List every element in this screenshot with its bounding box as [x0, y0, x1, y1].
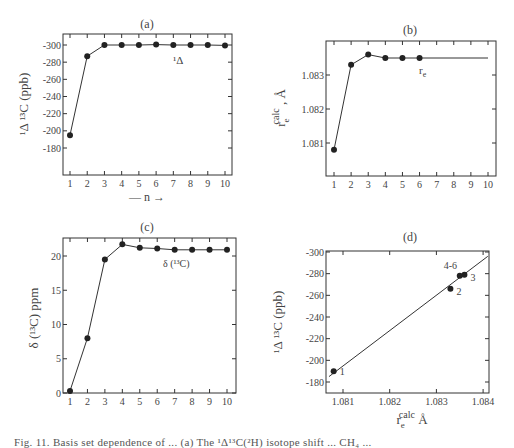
- svg-text:1.083: 1.083: [425, 396, 448, 407]
- svg-text:1.083: 1.083: [302, 70, 325, 81]
- svg-text:4: 4: [383, 179, 388, 190]
- svg-text:-280: -280: [306, 268, 324, 279]
- svg-text:-200: -200: [306, 355, 324, 366]
- svg-text:7: 7: [171, 178, 176, 189]
- panel-b-chart: (b) 1.0811.0821.08312345678910 re recalc…: [270, 23, 496, 190]
- svg-text:2: 2: [456, 286, 461, 297]
- panel-c-chart: (c) 0510152012345678910 δ (¹³C) δ (¹³C) …: [26, 220, 236, 407]
- panel-c-series: [67, 241, 230, 394]
- svg-text:-260: -260: [43, 74, 61, 85]
- svg-text:7: 7: [172, 396, 177, 407]
- svg-text:9: 9: [207, 396, 212, 407]
- svg-text:1.082: 1.082: [302, 104, 325, 115]
- svg-text:5: 5: [400, 179, 405, 190]
- svg-text:-240: -240: [43, 91, 61, 102]
- svg-text:2: 2: [349, 179, 354, 190]
- svg-text:2: 2: [85, 396, 90, 407]
- svg-text:-300: -300: [306, 247, 324, 258]
- svg-text:-260: -260: [306, 290, 324, 301]
- panel-c-frame: [63, 238, 236, 393]
- panel-c-ylabel: δ (¹³C) ppm: [26, 288, 41, 349]
- panel-d-chart: (d) -300-280-260-240-220-200-1801.0811.0…: [270, 230, 494, 430]
- panel-b-annotation: re: [419, 64, 427, 79]
- panel-d-series: 1234-6: [329, 256, 488, 377]
- svg-text:-220: -220: [306, 333, 324, 344]
- panel-a-annotation: ¹Δ: [173, 54, 183, 66]
- svg-text:0: 0: [56, 388, 61, 399]
- panel-b-series: [331, 52, 488, 153]
- svg-text:10: 10: [51, 319, 61, 330]
- svg-text:5: 5: [136, 178, 141, 189]
- svg-text:3: 3: [102, 396, 107, 407]
- svg-text:9: 9: [468, 179, 473, 190]
- svg-text:8: 8: [190, 396, 195, 407]
- svg-text:4: 4: [119, 178, 124, 189]
- svg-text:-180: -180: [43, 143, 61, 154]
- svg-text:15: 15: [51, 285, 61, 296]
- panel-a-ylabel: ¹Δ ¹³C (ppb): [16, 73, 31, 136]
- panel-d-ylabel: ¹Δ ¹³C (ppb): [270, 291, 285, 354]
- panel-a-chart: (a) -300-280-260-240-220-200-18012345678…: [16, 17, 232, 204]
- svg-text:1: 1: [332, 179, 337, 190]
- svg-text:5: 5: [137, 396, 142, 407]
- svg-text:1.081: 1.081: [302, 138, 325, 149]
- svg-text:3: 3: [102, 178, 107, 189]
- svg-text:-200: -200: [43, 125, 61, 136]
- svg-text:-180: -180: [306, 377, 324, 388]
- panel-c-annotation: δ (¹³C): [163, 258, 190, 270]
- panel-d-title: (d): [403, 230, 417, 244]
- svg-text:2: 2: [85, 178, 90, 189]
- panel-d-xlabel: recalc Å: [396, 409, 428, 430]
- panel-b-ylabel: recalc , Å: [270, 89, 291, 127]
- figure-caption: Fig. 11. Basis set dependence of ... (a)…: [14, 436, 372, 448]
- svg-text:10: 10: [483, 179, 493, 190]
- svg-text:-280: -280: [43, 57, 61, 68]
- svg-text:4-6: 4-6: [444, 260, 457, 271]
- svg-text:6: 6: [155, 396, 160, 407]
- svg-text:-300: -300: [43, 40, 61, 51]
- svg-text:10: 10: [222, 396, 232, 407]
- panel-d-axes: -300-280-260-240-220-200-1801.0811.0821.…: [306, 247, 495, 408]
- panel-a-axes: -300-280-260-240-220-200-18012345678910: [43, 34, 232, 189]
- svg-text:10: 10: [220, 178, 230, 189]
- svg-text:3: 3: [366, 179, 371, 190]
- svg-text:1.084: 1.084: [472, 396, 495, 407]
- svg-text:-220: -220: [43, 108, 61, 119]
- panel-c-title: (c): [140, 220, 153, 234]
- svg-text:5: 5: [56, 353, 61, 364]
- svg-text:8: 8: [451, 179, 456, 190]
- svg-text:4: 4: [120, 396, 125, 407]
- panel-a-series: [67, 42, 228, 139]
- panel-a-xlabel: — n →: [128, 190, 165, 204]
- panel-c-axes: 0510152012345678910: [51, 238, 236, 407]
- svg-text:9: 9: [205, 178, 210, 189]
- svg-text:3: 3: [470, 272, 475, 283]
- svg-text:1.081: 1.081: [332, 396, 355, 407]
- svg-text:1: 1: [68, 178, 73, 189]
- svg-text:6: 6: [154, 178, 159, 189]
- svg-text:20: 20: [51, 251, 61, 262]
- svg-text:7: 7: [434, 179, 439, 190]
- svg-text:1.082: 1.082: [378, 396, 401, 407]
- panel-b-frame: [326, 41, 496, 176]
- panel-b-axes: 1.0811.0821.08312345678910: [302, 41, 497, 190]
- svg-text:-240: -240: [306, 312, 324, 323]
- svg-text:6: 6: [417, 179, 422, 190]
- svg-text:8: 8: [188, 178, 193, 189]
- panel-b-title: (b): [403, 23, 417, 37]
- svg-text:1: 1: [68, 396, 73, 407]
- panel-a-title: (a): [140, 17, 153, 31]
- svg-text:1: 1: [340, 366, 345, 377]
